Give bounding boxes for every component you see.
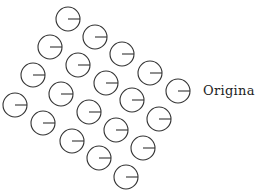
orientation-circle bbox=[110, 42, 134, 66]
orientation-circle bbox=[21, 63, 45, 87]
orientation-circle bbox=[38, 35, 62, 59]
orientation-circle bbox=[31, 111, 55, 135]
orientation-circle bbox=[60, 129, 84, 153]
diagram-label: Origina bbox=[203, 83, 255, 98]
orientation-circle bbox=[120, 88, 144, 112]
orientation-circle bbox=[66, 53, 90, 77]
orientation-circle bbox=[104, 118, 128, 142]
orientation-circle bbox=[94, 71, 118, 95]
orientation-circle bbox=[56, 7, 80, 31]
orientation-circle bbox=[147, 107, 171, 131]
orientation-circle bbox=[77, 100, 101, 124]
orientation-circle bbox=[3, 93, 27, 117]
orientation-circle bbox=[83, 25, 107, 49]
orientation-circle bbox=[138, 61, 162, 85]
orientation-circle bbox=[166, 79, 190, 103]
orientation-circle bbox=[131, 136, 155, 160]
orientation-circle bbox=[114, 165, 138, 189]
orientation-circle bbox=[87, 146, 111, 170]
orientation-circle bbox=[49, 82, 73, 106]
